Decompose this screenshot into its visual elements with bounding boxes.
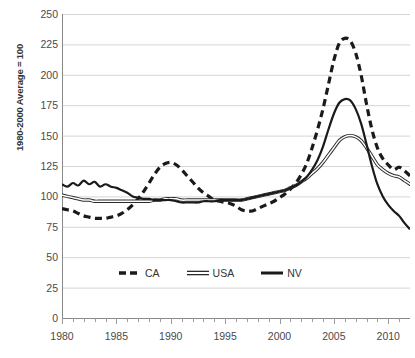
x-tick-label-1985: 1985 — [105, 330, 128, 342]
y-tick-label-225: 225 — [24, 38, 58, 50]
y-tick-label-75: 75 — [24, 221, 58, 233]
legend-item-nv[interactable]: NV — [260, 268, 302, 279]
y-tick-label-175: 175 — [24, 99, 58, 111]
series-line-nv — [62, 99, 410, 229]
y-axis-tick-labels: 0255075100125150175200225250 — [22, 0, 58, 358]
x-tick-label-2000: 2000 — [268, 330, 291, 342]
chart-legend: CAUSANV — [118, 268, 302, 279]
y-tick-label-150: 150 — [24, 130, 58, 142]
y-tick-label-100: 100 — [24, 190, 58, 202]
series-line-ca — [62, 38, 410, 218]
legend-label-nv: NV — [287, 268, 302, 279]
x-axis-tick-labels: 1980198519901995200020052010 — [0, 330, 415, 350]
x-tick-label-1995: 1995 — [213, 330, 236, 342]
legend-item-usa[interactable]: USA — [186, 268, 235, 279]
legend-label-ca: CA — [145, 268, 160, 279]
legend-label-usa: USA — [213, 268, 235, 279]
y-tick-label-200: 200 — [24, 69, 58, 81]
legend-swatch-usa-icon — [186, 268, 210, 278]
legend-swatch-nv-icon — [260, 268, 284, 278]
y-tick-label-0: 0 — [24, 312, 58, 324]
x-tick-label-2005: 2005 — [322, 330, 345, 342]
legend-item-ca[interactable]: CA — [118, 268, 160, 279]
y-tick-label-25: 25 — [24, 282, 58, 294]
y-tick-label-50: 50 — [24, 251, 58, 263]
chart-container: 1980-2000 Average = 100 0255075100125150… — [0, 0, 415, 358]
x-tick-label-1990: 1990 — [159, 330, 182, 342]
series-line-usa — [62, 136, 410, 202]
y-tick-label-250: 250 — [24, 8, 58, 20]
x-tick-label-1980: 1980 — [50, 330, 73, 342]
chart-svg — [62, 14, 410, 328]
y-tick-label-125: 125 — [24, 160, 58, 172]
legend-swatch-ca-icon — [118, 268, 142, 278]
x-tick-label-2010: 2010 — [377, 330, 400, 342]
